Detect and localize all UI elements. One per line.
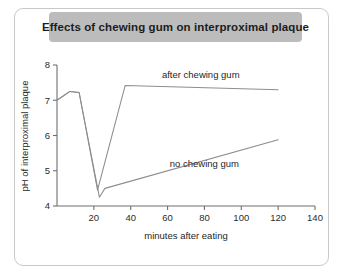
y-tick-label: 6 (45, 130, 50, 141)
x-axis: 20406080100120140 (57, 206, 323, 223)
chart-panel: Effects of chewing gum on interproximal … (14, 8, 329, 266)
y-axis-ticks (53, 65, 57, 206)
series-line (57, 85, 278, 190)
y-axis-label: pH of interproximal plaque (19, 81, 30, 192)
series-label: after chewing gum (162, 69, 240, 80)
x-axis-tick-labels: 20406080100120140 (89, 212, 323, 223)
x-tick-label: 100 (233, 212, 249, 223)
series-layer (57, 85, 278, 197)
y-tick-label: 5 (45, 165, 50, 176)
x-tick-label: 20 (89, 212, 100, 223)
y-tick-label: 4 (45, 200, 50, 211)
series-line (57, 91, 278, 197)
x-tick-label: 40 (125, 212, 136, 223)
y-tick-label: 8 (45, 59, 50, 70)
y-axis-tick-labels: 45678 (45, 59, 50, 211)
line-chart-svg: 45678 20406080100120140 after chewing gu… (15, 9, 330, 267)
x-axis-label: minutes after eating (144, 230, 227, 241)
x-axis-ticks (94, 206, 315, 210)
y-tick-label: 7 (45, 95, 50, 106)
y-axis: 45678 (45, 59, 57, 211)
x-tick-label: 60 (162, 212, 173, 223)
x-tick-label: 120 (270, 212, 286, 223)
x-tick-label: 80 (199, 212, 210, 223)
series-label: no chewing gum (170, 158, 239, 169)
plot-area: 45678 20406080100120140 after chewing gu… (15, 9, 330, 267)
x-tick-label: 140 (307, 212, 323, 223)
